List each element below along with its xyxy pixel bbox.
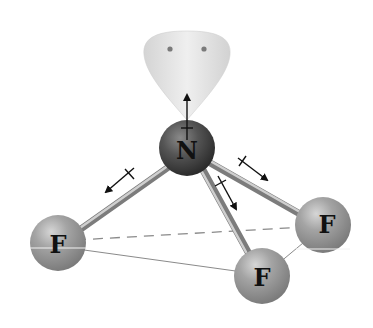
fluorine-atom-left: F [30, 215, 86, 271]
solid-edge-line [84, 250, 250, 273]
dashed-edge-line [76, 227, 305, 240]
atom-label-n: N [176, 136, 198, 165]
fluorine-atom-bottom: F [234, 248, 290, 304]
lone-pair-electron-icon [201, 46, 206, 51]
atom-label-f: F [49, 230, 66, 259]
nf-right-dipole-arrow-icon [238, 156, 267, 180]
nf3-diagram: N F F F [0, 0, 373, 328]
atom-label-f: F [318, 210, 335, 239]
nf-left-dipole-arrow-icon [106, 168, 134, 192]
lone-pair-electron-icon [167, 46, 172, 51]
molecule-figure: N F F F [0, 0, 373, 328]
atom-label-f: F [253, 263, 270, 292]
fluorine-atom-right: F [295, 197, 351, 253]
